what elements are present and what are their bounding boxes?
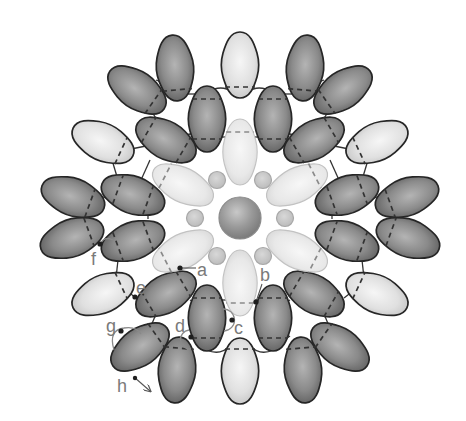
marker-dot-b: [253, 299, 258, 304]
small-round-bead: [187, 210, 204, 227]
small-round-bead: [209, 172, 226, 189]
small-round-bead: [277, 210, 294, 227]
label-g: g: [106, 316, 116, 336]
light-dagger-bead: [65, 263, 140, 324]
label-a: a: [197, 260, 208, 280]
small-round-bead: [255, 248, 272, 265]
small-round-bead: [255, 172, 272, 189]
dark-dagger-bead: [255, 285, 292, 351]
label-f: f: [91, 249, 97, 269]
center-bead: [219, 197, 261, 239]
dark-dagger-bead: [189, 285, 226, 351]
light-dagger-bead: [222, 32, 259, 98]
marker-dot-d: [188, 334, 193, 339]
inner-petal-bead: [223, 250, 257, 316]
dark-dagger-bead: [36, 168, 111, 225]
label-d: d: [175, 316, 185, 336]
light-dagger-bead: [339, 111, 414, 172]
label-c: c: [234, 318, 243, 338]
marker-dot-f: [97, 241, 102, 246]
marker-dot-a: [177, 265, 182, 270]
bead-pattern-diagram: a b c d e f g h: [0, 0, 466, 421]
light-dagger-bead: [339, 263, 414, 324]
inner-petal-bead: [223, 119, 257, 185]
light-dagger-bead: [65, 111, 140, 172]
dark-dagger-bead: [35, 209, 110, 266]
marker-dot-g: [118, 328, 123, 333]
marker-dot-h: [133, 376, 137, 380]
dark-dagger-bead: [370, 168, 445, 225]
dark-dagger-bead: [371, 209, 446, 266]
small-round-bead: [209, 248, 226, 265]
diagram-canvas: a b c d e f g h: [0, 0, 466, 421]
label-b: b: [260, 265, 270, 285]
center-bead-group: [219, 197, 261, 239]
light-dagger-bead: [222, 338, 259, 404]
label-e: e: [136, 278, 146, 298]
label-h: h: [117, 376, 127, 396]
